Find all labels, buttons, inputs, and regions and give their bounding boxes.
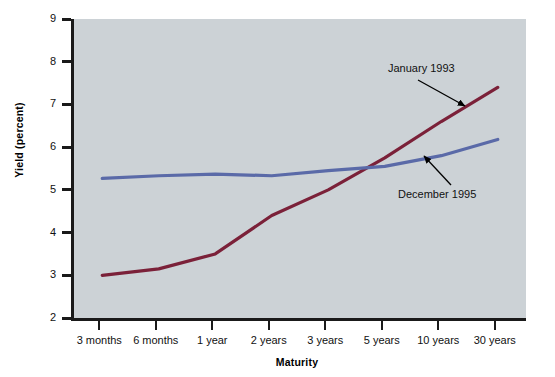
y-axis-tick	[62, 60, 71, 63]
y-axis-tick-label: 9	[10, 13, 56, 24]
y-axis-tick-label: 4	[10, 227, 56, 238]
annotation-january-1993: January 1993	[388, 62, 455, 74]
y-axis-tick-label: 6	[10, 141, 56, 152]
y-axis-tick-label: 3	[10, 269, 56, 280]
x-axis-tick	[324, 321, 326, 330]
y-axis-tick-label: 8	[10, 56, 56, 67]
y-axis-tick	[62, 18, 71, 21]
yield-curve-figure: Yield (percent) 98765432 3 months6 month…	[0, 0, 555, 377]
x-axis-tick	[494, 321, 496, 330]
y-axis-tick-label: 5	[10, 184, 56, 195]
x-axis-tick	[437, 321, 439, 330]
x-axis-title: Maturity	[71, 356, 523, 368]
y-axis-tick	[62, 231, 71, 234]
y-axis-tick-label: 2	[10, 312, 56, 323]
plot-area	[71, 19, 526, 321]
annotation-december-1995: December 1995	[398, 188, 476, 200]
x-axis-tick	[268, 321, 270, 330]
x-axis-tick	[211, 321, 213, 330]
y-axis-tick	[62, 103, 71, 106]
series-canvas	[74, 19, 526, 318]
series-line-december-1995	[102, 139, 498, 178]
y-axis-tick	[62, 188, 71, 191]
y-axis-tick-label: 7	[10, 98, 56, 109]
y-axis-tick	[62, 274, 71, 277]
x-axis-tick	[98, 321, 100, 330]
x-axis-tick-label: 30 years	[460, 334, 530, 346]
series-line-january-1993	[102, 87, 498, 275]
y-axis-tick	[62, 317, 71, 320]
x-axis-tick	[155, 321, 157, 330]
y-axis-tick	[62, 146, 71, 149]
x-axis-tick	[381, 321, 383, 330]
